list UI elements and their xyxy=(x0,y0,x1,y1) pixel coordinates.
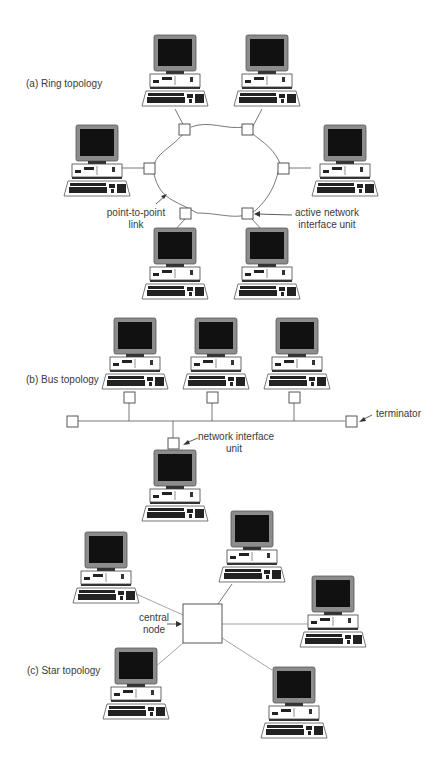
link-label-line2: link xyxy=(104,219,168,231)
ring-topology xyxy=(64,35,378,299)
bus-interface-unit xyxy=(207,392,218,403)
network-topologies-diagram xyxy=(0,0,437,772)
ring-interface-unit xyxy=(278,163,289,174)
bus-topology xyxy=(67,318,372,521)
link-label-line1: point-to-point xyxy=(104,207,168,219)
bus-niu-line2: unit xyxy=(198,443,270,455)
active-niu-line2: interface unit xyxy=(292,219,362,231)
active-niu-label: active network interface unit xyxy=(292,207,362,231)
star-topology xyxy=(73,511,366,738)
ring-interface-unit xyxy=(180,208,191,219)
ring-interface-unit xyxy=(144,163,155,174)
bus-niu-line1: network interface xyxy=(198,431,270,443)
terminator-label: terminator xyxy=(376,408,421,420)
bus-interface-unit xyxy=(289,392,300,403)
ring-interface-unit xyxy=(242,124,253,135)
bus-interface-unit xyxy=(124,392,135,403)
star-topology-title: (c) Star topology xyxy=(27,665,100,677)
ring-interface-unit xyxy=(179,124,190,135)
central-node-line1: central xyxy=(136,612,172,624)
ring-topology-title: (a) Ring topology xyxy=(26,78,102,90)
bus-terminator xyxy=(346,416,357,427)
ring-interface-unit xyxy=(242,208,253,219)
point-to-point-link-label: point-to-point link xyxy=(104,207,168,231)
active-niu-line1: active network xyxy=(292,207,362,219)
bus-topology-title: (b) Bus topology xyxy=(26,374,99,386)
central-node-label: central node xyxy=(136,612,172,636)
bus-terminator xyxy=(67,416,78,427)
bus-niu-label: network interface unit xyxy=(198,431,270,455)
bus-interface-unit xyxy=(168,438,179,449)
central-node-line2: node xyxy=(136,624,172,636)
star-central-node xyxy=(183,604,222,643)
